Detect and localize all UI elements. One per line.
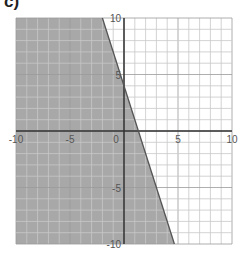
x-tick-label: 5 — [175, 134, 181, 145]
inequality-graph: -10-50510105-5-10 — [0, 0, 245, 254]
y-tick-label: -10 — [107, 239, 122, 250]
x-tick-label: 0 — [113, 134, 119, 145]
x-tick-label: 10 — [226, 134, 238, 145]
x-tick-label: -10 — [9, 134, 24, 145]
y-tick-label: 10 — [110, 13, 122, 24]
y-tick-label: -5 — [112, 183, 121, 194]
y-tick-label: 5 — [115, 70, 121, 81]
x-tick-label: -5 — [66, 134, 75, 145]
